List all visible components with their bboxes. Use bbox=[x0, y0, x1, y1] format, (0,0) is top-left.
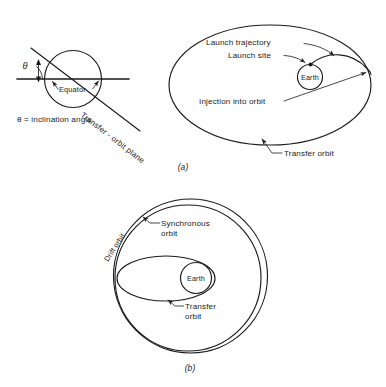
figure-root: θ Equator θ = inclination angle Transfer… bbox=[0, 0, 386, 387]
earth-label-panel-a: Earth bbox=[301, 73, 319, 82]
panel-b-synchronous-orbit-sketch: Earth Drift orbit Synchronous orbit Tran… bbox=[102, 199, 267, 373]
transfer-orbit-leader-panel-a bbox=[262, 139, 282, 153]
equator-leader-left bbox=[53, 82, 59, 90]
transfer-orbit-label-panel-a: Transfer orbit bbox=[284, 149, 335, 158]
transfer-orbit-plane-label: Transfer - orbit plane bbox=[79, 110, 147, 165]
synchronous-orbit-label-line1: Synchronous bbox=[161, 219, 210, 228]
panel-a-caption: (a) bbox=[178, 162, 189, 172]
launch-trajectory-label: Launch trajectory bbox=[206, 38, 271, 47]
panel-a-inclination-sketch: θ Equator θ = inclination angle Transfer… bbox=[17, 48, 147, 165]
panel-a-transfer-ellipse-sketch: Earth Launch trajectory Launch site Inje… bbox=[169, 25, 371, 172]
transfer-orbit-label-panel-b-line1: Transfer bbox=[185, 302, 216, 311]
synchronous-orbit-leader bbox=[143, 217, 160, 223]
injection-into-orbit-leader bbox=[284, 73, 366, 102]
launch-site-label: Launch site bbox=[228, 51, 271, 60]
drift-orbit-label: Drift orbit bbox=[102, 232, 127, 263]
injection-into-orbit-label: Injection into orbit bbox=[199, 97, 266, 106]
transfer-orbit-label-panel-b-line2: orbit bbox=[185, 312, 202, 321]
earth-label-panel-b: Earth bbox=[187, 274, 205, 283]
orbit-diagram-svg: θ Equator θ = inclination angle Transfer… bbox=[0, 0, 386, 387]
angle-arrow-up-icon bbox=[36, 59, 41, 65]
equator-label: Equator bbox=[59, 85, 86, 94]
launch-site-marker bbox=[309, 63, 313, 67]
equator-leader-right bbox=[93, 81, 99, 89]
launch-trajectory-leader bbox=[304, 44, 334, 56]
theta-symbol: θ bbox=[23, 61, 28, 71]
panel-b-caption: (b) bbox=[185, 363, 196, 373]
synchronous-orbit-label-line2: orbit bbox=[161, 229, 178, 238]
launch-site-leader bbox=[284, 56, 305, 63]
